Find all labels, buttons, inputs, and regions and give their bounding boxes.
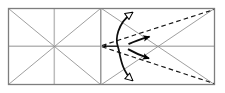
paper-folding-diagram — [0, 0, 225, 93]
diagram-canvas — [0, 0, 225, 93]
